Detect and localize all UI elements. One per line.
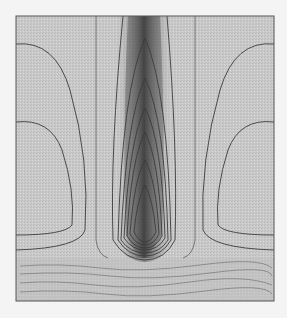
contour-figure (0, 0, 287, 318)
